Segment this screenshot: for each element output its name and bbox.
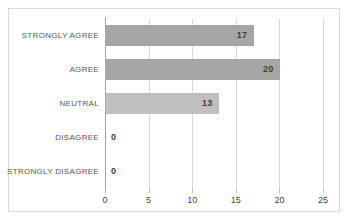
bar-row: STRONGLY DISAGREE0 — [105, 155, 323, 189]
bar — [106, 25, 254, 46]
x-tick-label: 20 — [274, 195, 284, 205]
x-tick-label: 10 — [187, 195, 197, 205]
x-tick-label: 25 — [318, 195, 328, 205]
x-tick-label: 0 — [102, 195, 107, 205]
bar-value-label: 17 — [237, 25, 247, 46]
category-label: STRONGLY AGREE — [22, 25, 99, 46]
x-tick-label: 5 — [146, 195, 151, 205]
x-tick-mark — [192, 189, 193, 193]
bar-value-label: 13 — [202, 93, 212, 114]
bar-value-label: 20 — [263, 59, 273, 80]
bar-row: DISAGREE0 — [105, 121, 323, 155]
category-label: STRONGLY DISAGREE — [7, 161, 99, 182]
x-tick-label: 15 — [231, 195, 241, 205]
category-label: NEUTRAL — [60, 93, 99, 114]
chart-frame: STRONGLY AGREE17AGREE20NEUTRAL13DISAGREE… — [8, 8, 340, 212]
x-tick-mark — [105, 189, 106, 193]
x-axis: 0510152025 — [105, 189, 323, 213]
x-tick-mark — [149, 189, 150, 193]
gridline — [323, 19, 324, 189]
bar — [106, 59, 280, 80]
category-label: AGREE — [69, 59, 99, 80]
x-tick-mark — [323, 189, 324, 193]
plot-area: STRONGLY AGREE17AGREE20NEUTRAL13DISAGREE… — [105, 19, 323, 189]
x-tick-mark — [236, 189, 237, 193]
bar-row: AGREE20 — [105, 53, 323, 87]
bar-value-label: 0 — [111, 127, 116, 148]
bar-row: NEUTRAL13 — [105, 87, 323, 121]
category-label: DISAGREE — [55, 127, 99, 148]
bar-row: STRONGLY AGREE17 — [105, 19, 323, 53]
bar-value-label: 0 — [111, 161, 116, 182]
x-tick-mark — [279, 189, 280, 193]
